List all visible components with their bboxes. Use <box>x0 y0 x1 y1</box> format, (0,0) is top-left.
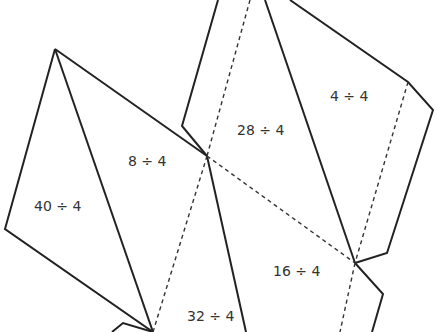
cut-edge <box>55 49 153 332</box>
face-label-40-div-4: 40 ÷ 4 <box>34 199 81 213</box>
cut-edge <box>290 0 433 263</box>
polyhedron-net-diagram <box>0 0 437 332</box>
face-label-4-div-4: 4 ÷ 4 <box>330 89 368 103</box>
face-label-16-div-4: 16 ÷ 4 <box>273 264 320 278</box>
cut-edge <box>5 49 153 332</box>
cut-edge <box>182 0 218 156</box>
cut-edge <box>55 49 207 156</box>
cut-edge <box>355 263 383 332</box>
fold-line <box>207 156 355 263</box>
face-label-32-div-4: 32 ÷ 4 <box>187 309 234 323</box>
fold-line <box>153 156 207 332</box>
face-label-28-div-4: 28 ÷ 4 <box>237 123 284 137</box>
cut-edge <box>207 156 246 332</box>
fold-line <box>340 263 355 332</box>
cut-edges <box>5 0 433 332</box>
fold-lines <box>153 0 408 332</box>
fold-line <box>355 82 408 263</box>
face-label-8-div-4: 8 ÷ 4 <box>128 154 166 168</box>
